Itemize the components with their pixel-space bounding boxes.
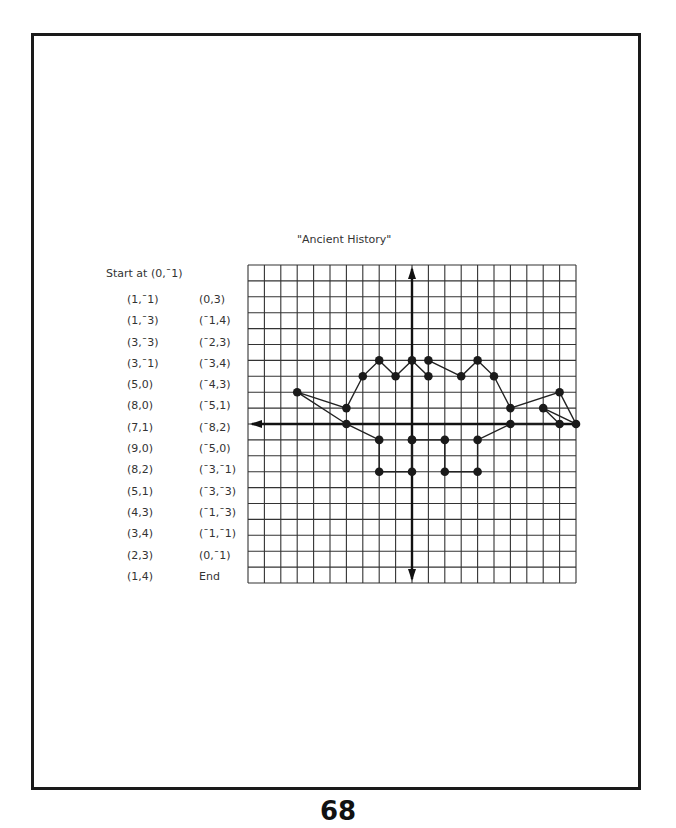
plotted-point [342, 404, 351, 413]
plotted-point [490, 372, 499, 381]
page-number: 68 [0, 796, 676, 826]
plotted-point [473, 467, 482, 476]
plotted-point [441, 436, 450, 445]
plotted-point [375, 467, 384, 476]
x-axis-left-arrow-icon [250, 420, 262, 428]
plotted-point [293, 388, 302, 397]
y-axis-down-arrow-icon [408, 569, 416, 581]
plotted-point [473, 436, 482, 445]
plotted-point [359, 372, 368, 381]
coordinate-grid [0, 0, 676, 828]
plotted-picture [293, 356, 580, 476]
plotted-point [506, 404, 515, 413]
plotted-point [555, 420, 564, 429]
plotted-point [424, 356, 433, 365]
plotted-point [555, 388, 564, 397]
picture-outline [297, 360, 576, 471]
plotted-point [506, 420, 515, 429]
plotted-point [408, 436, 417, 445]
plotted-point [375, 356, 384, 365]
plotted-point [408, 356, 417, 365]
plotted-point [342, 420, 351, 429]
plotted-point [457, 372, 466, 381]
plotted-point [408, 467, 417, 476]
plotted-point [391, 372, 400, 381]
plotted-point [375, 436, 384, 445]
plotted-point [441, 467, 450, 476]
plotted-point [539, 404, 548, 413]
plotted-point [572, 420, 581, 429]
y-axis-up-arrow-icon [408, 267, 416, 279]
plotted-point [473, 356, 482, 365]
plotted-point [424, 372, 433, 381]
